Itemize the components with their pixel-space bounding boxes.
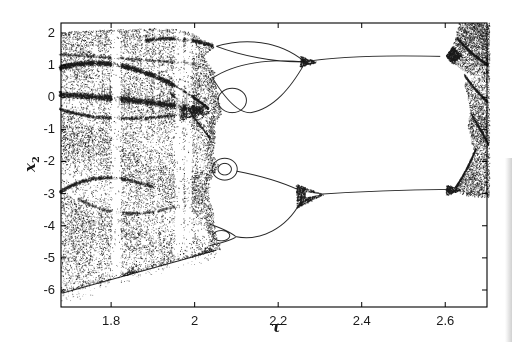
y-axis-label: x2	[21, 147, 41, 181]
y-tick-label: -4	[21, 218, 55, 233]
y-tick-label: -3	[21, 186, 55, 201]
y-tick-label: 1	[21, 57, 55, 72]
x-axis-label: τ	[264, 318, 288, 336]
y-tick-label: -5	[21, 250, 55, 265]
y-tick-label: 2	[21, 25, 55, 40]
bifurcation-figure: 1.822.22.42.6 210-1-2-3-4-5-6 τ x2	[0, 0, 512, 342]
y-axis-label-base: x	[21, 163, 39, 172]
bifurcation-plot-canvas	[0, 0, 512, 342]
x-tick-label: 1.8	[94, 313, 128, 328]
y-tick-label: -1	[21, 121, 55, 136]
x-tick-label: 2.6	[428, 313, 462, 328]
y-axis-label-subscript: 2	[30, 156, 41, 163]
scan-page-edge-shadow	[505, 158, 512, 342]
x-tick-label: 2	[178, 313, 212, 328]
y-tick-label: -6	[21, 282, 55, 297]
x-tick-label: 2.4	[345, 313, 379, 328]
y-tick-label: 0	[21, 89, 55, 104]
